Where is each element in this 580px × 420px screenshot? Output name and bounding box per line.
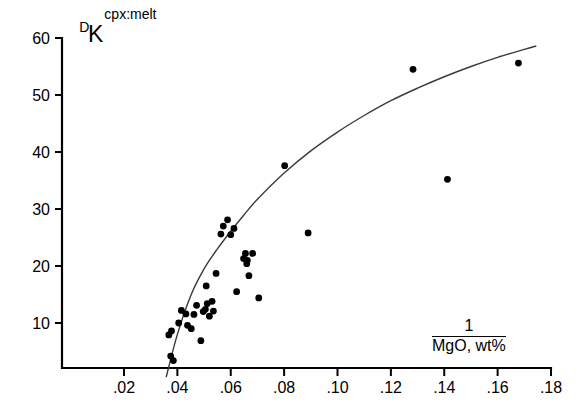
- data-point: [244, 257, 251, 264]
- data-point: [202, 306, 209, 313]
- x-tick-label: .14: [433, 379, 455, 396]
- x-tick-label: .08: [273, 379, 295, 396]
- data-point: [444, 176, 451, 183]
- x-tick-label: .12: [380, 379, 402, 396]
- data-point: [183, 310, 190, 317]
- data-point: [242, 250, 249, 257]
- data-point: [224, 216, 231, 223]
- data-point: [281, 162, 288, 169]
- data-point: [170, 357, 177, 364]
- x-tick-label: .06: [220, 379, 242, 396]
- y-tick-label: 50: [32, 87, 50, 104]
- data-point: [410, 66, 417, 73]
- data-point: [233, 288, 240, 295]
- x-tick-label: .04: [166, 379, 188, 396]
- data-point: [188, 325, 195, 332]
- y-axis-label-superscript: cpx:melt: [104, 7, 156, 21]
- data-point: [255, 295, 262, 302]
- y-axis-label-subscript: D: [79, 20, 131, 34]
- x-axis-label-denominator: MgO, wt%: [432, 337, 506, 355]
- data-point: [227, 231, 234, 238]
- data-point: [197, 337, 204, 344]
- y-tick-label: 60: [32, 30, 50, 47]
- data-point: [210, 308, 217, 315]
- y-tick-label: 40: [32, 144, 50, 161]
- data-point: [231, 225, 238, 232]
- x-tick-label: .18: [540, 379, 562, 396]
- data-point: [249, 250, 256, 257]
- data-point: [213, 270, 220, 277]
- y-axis-label: Kcpx:meltD: [88, 16, 156, 46]
- data-point: [515, 60, 522, 67]
- x-tick-label: .02: [113, 379, 135, 396]
- data-point: [165, 332, 172, 339]
- y-tick-label: 20: [32, 258, 50, 275]
- x-tick-label: .16: [487, 379, 509, 396]
- data-point: [175, 320, 182, 327]
- x-tick-label: .10: [326, 379, 348, 396]
- data-point: [191, 311, 198, 318]
- scatter-plot-canvas: 102030405060.02.04.06.08.10.12.14.16.18: [0, 0, 580, 420]
- y-tick-label: 30: [32, 201, 50, 218]
- x-axis-label: 1 MgO, wt%: [432, 318, 506, 355]
- data-point: [305, 230, 312, 237]
- data-point: [246, 272, 253, 279]
- data-point: [209, 298, 216, 305]
- y-tick-label: 10: [32, 315, 50, 332]
- chart-figure: 102030405060.02.04.06.08.10.12.14.16.18 …: [0, 0, 580, 420]
- data-point: [217, 231, 224, 238]
- data-point: [203, 283, 210, 290]
- x-axis-label-numerator: 1: [432, 318, 506, 336]
- data-point: [193, 302, 200, 309]
- data-point: [220, 223, 227, 230]
